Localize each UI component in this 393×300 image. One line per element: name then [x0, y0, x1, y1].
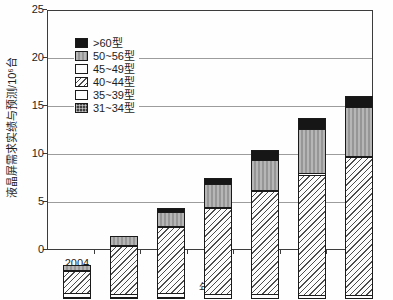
legend-item: 50~56型: [75, 49, 135, 62]
legend-item: 40~44型: [75, 75, 135, 88]
legend-swatch-50-56-icon: [75, 51, 88, 61]
bar-segment-gt60: [299, 119, 325, 130]
y-axis-title: 液晶屏需求实绩与预测/10⁶台: [3, 0, 18, 278]
y-tick-label: 10: [14, 148, 44, 159]
x-tick-mark: [140, 250, 141, 254]
bar-segment-35-39: [252, 295, 278, 299]
bar-segment-50-56: [111, 237, 137, 246]
legend-label: >60型: [93, 37, 123, 49]
y-tick-label: 20: [14, 52, 44, 63]
bar-segment-40-44: [252, 192, 278, 295]
chart-figure: 液晶屏需求实绩与预测/10⁶台 0510152025 2004200520062…: [0, 0, 393, 300]
bar-segment-gt60: [252, 151, 278, 161]
bar-segment-31-34: [111, 298, 137, 299]
bar-2005: [110, 236, 138, 299]
bar-segment-50-56: [346, 108, 372, 157]
legend-swatch-35-39-icon: [75, 90, 88, 100]
bar-segment-31-34: [64, 298, 90, 299]
bar-segment-35-39: [205, 295, 231, 299]
legend-label: 50~56型: [93, 50, 135, 62]
bar-segment-50-56: [252, 161, 278, 192]
bar-segment-gt60: [346, 97, 372, 108]
legend-label: 35~39型: [93, 89, 135, 101]
bar-segment-40-44: [158, 228, 184, 294]
x-tick-mark: [280, 250, 281, 254]
legend-label: 31~34型: [93, 102, 135, 114]
x-tick-mark: [94, 250, 95, 254]
x-tick-mark: [233, 250, 234, 254]
y-tick-label: 25: [14, 4, 44, 15]
bar-segment-40-44: [346, 158, 372, 295]
legend-item: 45~49型: [75, 62, 135, 75]
legend-item: 31~34型: [75, 101, 135, 114]
bar-segment-50-56: [299, 130, 325, 174]
x-tick-mark: [326, 250, 327, 254]
x-tick-mark: [187, 250, 188, 254]
bar-segment-40-44: [299, 176, 325, 296]
bar-segment-35-39: [299, 296, 325, 299]
bar-2009: [298, 118, 326, 299]
bar-segment-50-56: [158, 213, 184, 227]
bar-2010: [345, 96, 373, 299]
bar-segment-50-56: [205, 185, 231, 208]
bar-2006: [157, 208, 185, 299]
bar-segment-40-44: [205, 209, 231, 295]
legend-swatch-31-34-icon: [75, 103, 88, 113]
legend-swatch-40-44-icon: [75, 77, 88, 87]
y-tick-label: 15: [14, 100, 44, 111]
legend-label: 40~44型: [93, 76, 135, 88]
bar-2008: [251, 150, 279, 299]
y-tick-label: 5: [14, 196, 44, 207]
legend-item: 35~39型: [75, 88, 135, 101]
legend-swatch-45-49-icon: [75, 64, 88, 74]
bar-segment-40-44: [111, 247, 137, 295]
bar-2004: [63, 265, 91, 299]
bar-segment-31-34: [158, 298, 184, 299]
bar-segment-40-44: [64, 272, 90, 294]
legend-label: 45~49型: [93, 63, 135, 75]
bar-segment-35-39: [346, 296, 372, 299]
legend: >60型50~56型45~49型40~44型35~39型31~34型: [74, 35, 139, 115]
legend-swatch-gt60-icon: [75, 38, 88, 48]
y-tick-label: 0: [14, 244, 44, 255]
legend-item: >60型: [75, 36, 135, 49]
bar-2007: [204, 178, 232, 299]
